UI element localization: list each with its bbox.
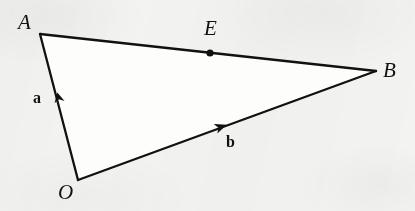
point-label-a: A xyxy=(18,12,31,33)
point-label-b: B xyxy=(383,60,396,81)
point-e-dot xyxy=(206,49,213,56)
geometry-figure: A B O E a b xyxy=(0,0,415,211)
vector-label-a: a xyxy=(33,90,41,106)
point-label-o: O xyxy=(58,182,73,203)
point-label-e: E xyxy=(204,18,217,39)
vector-label-b: b xyxy=(226,134,235,150)
